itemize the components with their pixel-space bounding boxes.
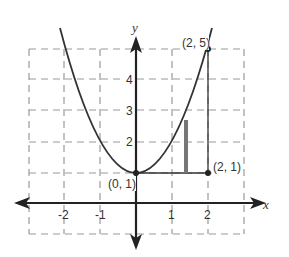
point-label-2-5: (2, 5) [182,36,210,50]
y-tick-label: 4 [126,73,133,87]
y-tick-labels: 2 3 4 [124,70,134,149]
x-axis-label: x [262,197,269,212]
x-tick-labels: -2 -1 1 2 [58,208,211,222]
point-label-0-1: (0, 1) [108,177,136,191]
point-2-1 [205,170,211,176]
point-label-2-1: (2, 1) [213,160,241,174]
y-axis-label: y [130,20,138,35]
shaded-bar [184,120,188,173]
x-tick-label: 1 [168,208,175,222]
x-tick-label: 2 [204,208,211,222]
point-0-1 [133,170,139,176]
function-graph: x y -2 -1 1 2 2 3 4 (2, 5) (0, 1) (2, 1) [0,0,289,257]
x-tick-label: -1 [95,208,106,222]
y-tick-label: 2 [126,135,133,149]
y-tick-label: 3 [126,104,133,118]
x-axis: x [14,197,269,212]
x-tick-label: -2 [58,208,69,222]
